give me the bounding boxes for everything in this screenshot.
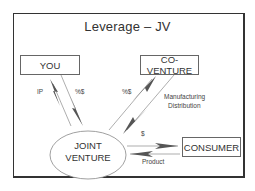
edge-label-dollar: $ [141,130,145,137]
edge-label-distribution: Distribution [168,102,201,109]
edge-label-you-to-jv: %$ [75,88,84,95]
jv-to-coventure-arrowhead [133,76,156,100]
ip-arrowhead [50,79,60,106]
edge-label-ip: IP [37,88,43,95]
edge-label-manufacturing: Manufacturing [164,93,205,100]
consumer-node: CONSUMER [182,137,241,157]
you-node: YOU [20,55,80,75]
edge-label-jv-to-coventure: %$ [122,88,131,95]
diagram-connectors [0,0,255,191]
co-venture-node: CO-VENTURE [140,55,199,75]
edge-label-product: Product [142,158,164,165]
joint-venture-label-line2: VENTURE [50,152,126,164]
joint-venture-node: JOINT VENTURE [50,140,126,164]
joint-venture-label-line1: JOINT [50,140,126,152]
